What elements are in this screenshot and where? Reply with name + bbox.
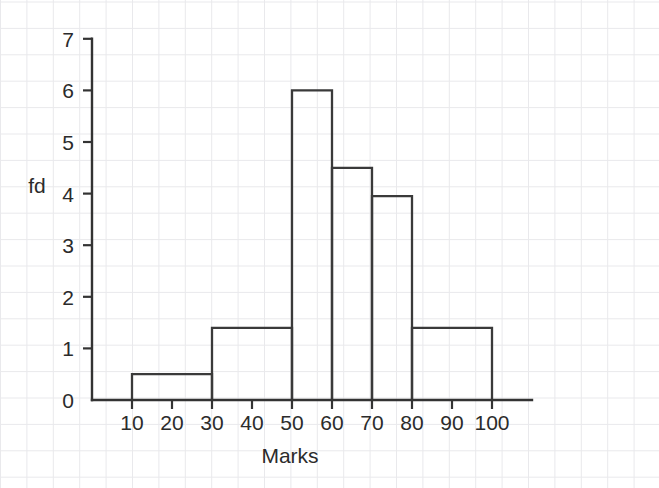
y-tick-label: 3 <box>62 234 74 257</box>
y-axis-ticks <box>83 39 92 349</box>
histogram-figure: 01234567 102030405060708090100 fd Marks <box>0 0 659 488</box>
chart-canvas: 01234567 102030405060708090100 fd Marks <box>0 0 659 488</box>
x-axis-ticks <box>132 400 492 409</box>
y-tick-label: 7 <box>62 28 74 51</box>
x-tick-label: 70 <box>360 411 383 434</box>
y-tick-label: 4 <box>62 183 74 206</box>
y-tick-label: 5 <box>62 131 74 154</box>
y-axis-tick-labels: 01234567 <box>62 28 74 412</box>
histogram-bar <box>372 196 412 400</box>
y-tick-label: 1 <box>62 337 74 360</box>
histogram-bar <box>332 168 372 400</box>
histogram-bars <box>132 90 492 400</box>
histogram-bar <box>212 328 292 400</box>
x-axis-title: Marks <box>261 444 318 467</box>
histogram-bar <box>292 90 332 400</box>
y-tick-label: 6 <box>62 79 74 102</box>
x-tick-label: 40 <box>240 411 263 434</box>
x-tick-label: 60 <box>320 411 343 434</box>
y-tick-label: 2 <box>62 286 74 309</box>
axes <box>92 39 532 400</box>
x-tick-label: 10 <box>120 411 143 434</box>
histogram-bar <box>132 374 212 400</box>
y-tick-label: 0 <box>62 389 74 412</box>
x-tick-label: 90 <box>440 411 463 434</box>
x-tick-label: 100 <box>474 411 509 434</box>
histogram-bar <box>412 328 492 400</box>
x-tick-label: 50 <box>280 411 303 434</box>
x-tick-label: 20 <box>160 411 183 434</box>
x-tick-label: 80 <box>400 411 423 434</box>
x-axis-tick-labels: 102030405060708090100 <box>120 411 509 434</box>
x-tick-label: 30 <box>200 411 223 434</box>
y-axis-title: fd <box>28 174 46 197</box>
